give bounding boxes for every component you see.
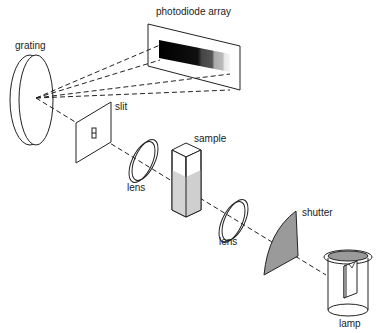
lamp (324, 250, 372, 316)
lens-1 (124, 136, 164, 186)
label-lens-2: lens (219, 236, 237, 247)
sample-cuvette (172, 143, 201, 217)
label-grating: grating (15, 40, 46, 51)
diagram-canvas (0, 0, 383, 333)
label-lens-1: lens (127, 182, 145, 193)
label-sample: sample (194, 133, 226, 144)
photodiode-array (148, 24, 240, 90)
label-photodiode-array: photodiode array (156, 6, 231, 17)
label-lamp: lamp (339, 318, 361, 329)
shutter (264, 211, 298, 275)
grating (10, 55, 53, 145)
slit (76, 102, 111, 163)
label-slit: slit (115, 101, 127, 112)
label-shutter: shutter (302, 207, 333, 218)
